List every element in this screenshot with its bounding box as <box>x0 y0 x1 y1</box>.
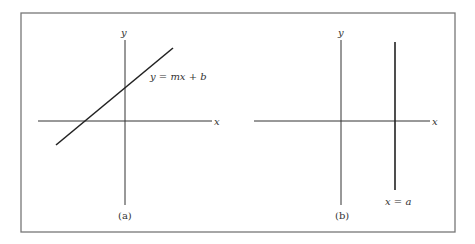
panel-caption: (b) <box>335 210 349 221</box>
slanted-line <box>56 48 173 145</box>
x-axis-label: x <box>214 116 220 127</box>
line-equation-label: y = mx + b <box>149 71 207 82</box>
x-axis-label: x <box>432 116 438 127</box>
figure: y x y = mx + b (a) y x x = a (b) <box>0 0 475 244</box>
y-axis-label: y <box>120 27 127 38</box>
line-equation-label: x = a <box>385 196 411 207</box>
panel-caption: (a) <box>118 210 132 221</box>
panel-b: y x x = a (b) <box>254 27 438 221</box>
y-axis-label: y <box>337 27 344 38</box>
panel-a: y x y = mx + b (a) <box>38 27 220 221</box>
